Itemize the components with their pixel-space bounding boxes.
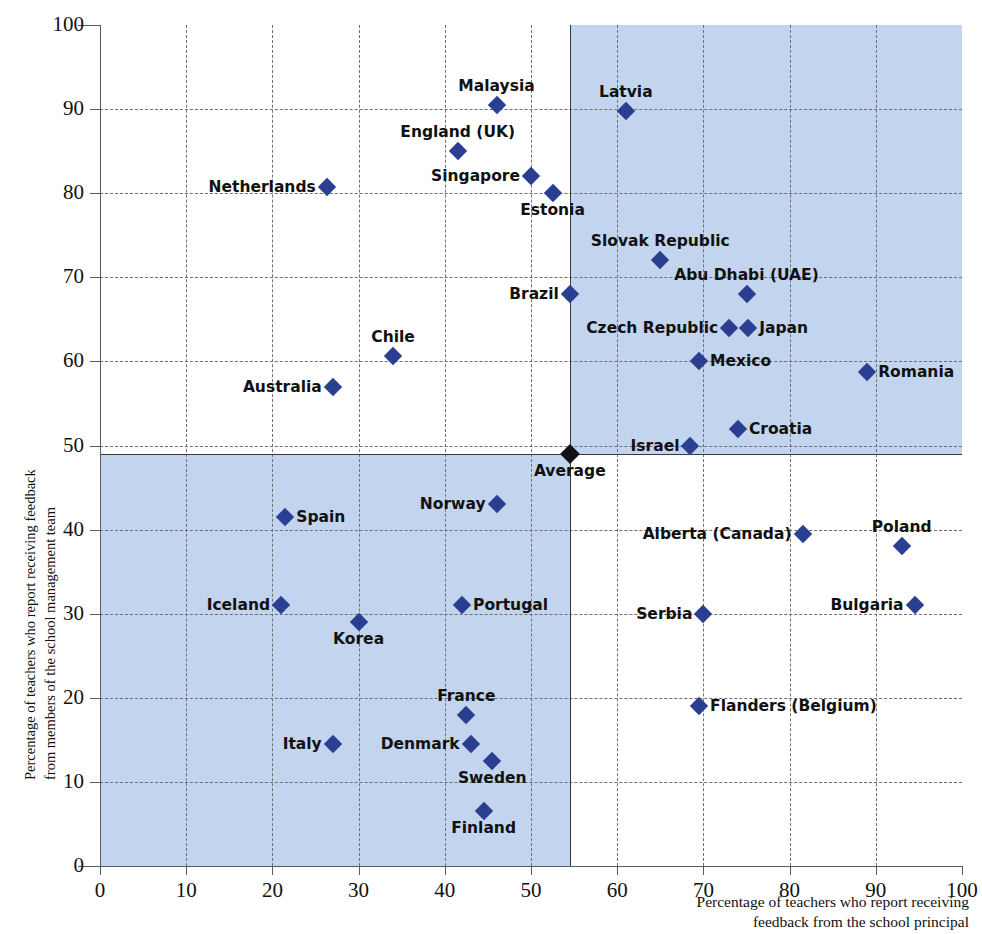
data-point-label: Slovak Republic bbox=[591, 233, 730, 249]
data-point-label: Portugal bbox=[473, 597, 548, 613]
data-point-marker[interactable] bbox=[690, 697, 708, 715]
data-point-label: Chile bbox=[371, 329, 415, 345]
y-axis-tick-label: 30 bbox=[24, 603, 84, 624]
data-point-label: Italy bbox=[283, 736, 322, 752]
x-axis-tick-label: 10 bbox=[156, 880, 216, 901]
data-point-label: Singapore bbox=[431, 168, 520, 184]
data-point-label: Israel bbox=[631, 438, 680, 454]
data-point-label: Brazil bbox=[509, 286, 559, 302]
y-axis-tick bbox=[90, 614, 100, 615]
y-axis-tick bbox=[90, 782, 100, 783]
y-axis-tick bbox=[90, 446, 100, 447]
y-axis-tick-label: 50 bbox=[24, 435, 84, 456]
data-point-marker[interactable] bbox=[892, 537, 910, 555]
gridline-horizontal bbox=[100, 530, 962, 531]
x-axis-tick bbox=[531, 866, 532, 875]
gridline-horizontal bbox=[100, 782, 962, 783]
y-axis-line bbox=[100, 25, 101, 866]
data-point-label: Malaysia bbox=[458, 78, 534, 94]
y-axis-tick bbox=[90, 866, 100, 867]
average-reference-line-horizontal bbox=[100, 454, 962, 455]
data-point-label: Alberta (Canada) bbox=[643, 526, 792, 542]
y-axis-tick-label: 20 bbox=[24, 687, 84, 708]
data-point-label: Japan bbox=[759, 320, 808, 336]
x-axis-tick bbox=[100, 866, 101, 875]
plot-area: MalaysiaLatviaEngland (UK)SingaporeNethe… bbox=[100, 25, 962, 866]
x-axis-line bbox=[78, 866, 962, 867]
data-point-label: Iceland bbox=[207, 597, 270, 613]
data-point-label: Flanders (Belgium) bbox=[710, 698, 877, 714]
y-axis-tick bbox=[90, 109, 100, 110]
x-axis-tick bbox=[876, 866, 877, 875]
data-point-label: Finland bbox=[451, 820, 516, 836]
x-axis-title: Percentage of teachers who report receiv… bbox=[697, 892, 969, 932]
x-axis-tick bbox=[445, 866, 446, 875]
data-point-label: Mexico bbox=[710, 353, 771, 369]
x-axis-tick-label: 80 bbox=[760, 880, 820, 901]
y-axis-title-line1: Percentage of teachers who report receiv… bbox=[22, 469, 39, 780]
x-axis-tick-label: 30 bbox=[329, 880, 389, 901]
y-axis-tick bbox=[90, 361, 100, 362]
y-axis-tick bbox=[90, 530, 100, 531]
x-axis-tick-label: 50 bbox=[501, 880, 561, 901]
data-point-label: Serbia bbox=[636, 606, 692, 622]
data-point-marker[interactable] bbox=[522, 167, 540, 185]
y-axis-tick-label: 100 bbox=[24, 14, 84, 35]
x-axis-tick-label: 70 bbox=[673, 880, 733, 901]
data-point-label: Romania bbox=[878, 364, 954, 380]
y-axis-tick-label: 10 bbox=[24, 771, 84, 792]
gridline-horizontal bbox=[100, 361, 962, 362]
x-axis-title-line1: Percentage of teachers who report receiv… bbox=[697, 892, 969, 912]
data-point-label: Sweden bbox=[458, 770, 527, 786]
data-point-label: Denmark bbox=[381, 736, 460, 752]
data-point-label: Bulgaria bbox=[830, 597, 903, 613]
y-axis-tick-label: 60 bbox=[24, 350, 84, 371]
data-point-label: Australia bbox=[243, 379, 322, 395]
y-axis-tick-label: 0 bbox=[24, 855, 84, 876]
data-point-label: Norway bbox=[420, 496, 486, 512]
x-axis-tick-label: 60 bbox=[587, 880, 647, 901]
data-point-label: France bbox=[437, 688, 495, 704]
y-axis-tick-label: 80 bbox=[24, 182, 84, 203]
data-point-label: Estonia bbox=[520, 202, 585, 218]
x-axis-tick bbox=[962, 866, 963, 875]
gridline-horizontal bbox=[100, 446, 962, 447]
data-point-marker[interactable] bbox=[449, 142, 467, 160]
y-axis-tick bbox=[90, 698, 100, 699]
data-point-label: Abu Dhabi (UAE) bbox=[674, 267, 819, 283]
x-axis-title-line2: feedback from the school principal bbox=[697, 912, 969, 932]
data-point-label: Spain bbox=[296, 509, 345, 525]
y-axis-tick-label: 70 bbox=[24, 266, 84, 287]
x-axis-tick-label: 40 bbox=[415, 880, 475, 901]
data-point-marker[interactable] bbox=[324, 377, 342, 395]
data-point-label: Average bbox=[534, 463, 606, 479]
x-axis-tick bbox=[790, 866, 791, 875]
data-point-label: Korea bbox=[333, 631, 384, 647]
x-axis-tick-label: 100 bbox=[932, 880, 982, 901]
x-axis-tick bbox=[703, 866, 704, 875]
gridline-horizontal bbox=[100, 277, 962, 278]
x-axis-tick-label: 90 bbox=[846, 880, 906, 901]
x-axis-tick bbox=[617, 866, 618, 875]
data-point-label: Poland bbox=[872, 519, 932, 535]
y-axis-tick-label: 40 bbox=[24, 519, 84, 540]
x-axis-tick bbox=[359, 866, 360, 875]
x-axis-tick bbox=[272, 866, 273, 875]
x-axis-tick bbox=[186, 866, 187, 875]
data-point-marker[interactable] bbox=[543, 184, 561, 202]
x-axis-tick-label: 20 bbox=[242, 880, 302, 901]
y-axis-tick bbox=[90, 277, 100, 278]
y-axis-tick-label: 90 bbox=[24, 98, 84, 119]
gridline-horizontal bbox=[100, 109, 962, 110]
data-point-label: Croatia bbox=[749, 421, 812, 437]
data-point-marker[interactable] bbox=[487, 96, 505, 114]
y-axis-tick bbox=[90, 193, 100, 194]
data-point-label: Czech Republic bbox=[586, 320, 718, 336]
y-axis-title-line2: from members of the school management te… bbox=[42, 507, 59, 780]
data-point-marker[interactable] bbox=[905, 596, 923, 614]
data-point-marker[interactable] bbox=[694, 604, 712, 622]
y-axis-tick bbox=[90, 25, 100, 26]
data-point-label: Netherlands bbox=[208, 179, 315, 195]
data-point-marker[interactable] bbox=[793, 525, 811, 543]
